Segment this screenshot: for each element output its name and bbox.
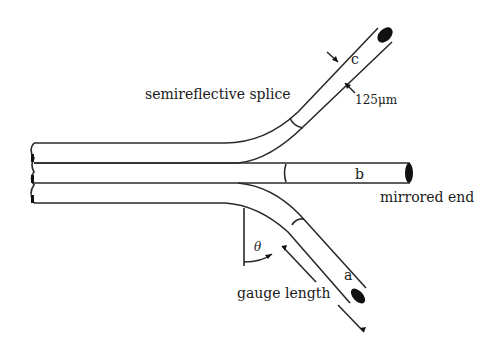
mirrored-end-label: mirrored end bbox=[380, 190, 474, 204]
gauge-length-line-bottom bbox=[338, 305, 364, 332]
fiber-c-label: c bbox=[351, 52, 359, 66]
splice-mark-a bbox=[292, 219, 304, 225]
fiber-b-label: b bbox=[355, 167, 364, 181]
fiber-a-end bbox=[348, 286, 368, 306]
diameter-label: 125μm bbox=[355, 94, 397, 106]
splice-label: semireflective splice bbox=[145, 87, 291, 101]
fiber-c-inner-edge bbox=[34, 42, 392, 163]
splice-mark-b bbox=[285, 164, 287, 182]
fiber-coupler-diagram bbox=[0, 0, 504, 357]
gauge-length-line-top bbox=[282, 246, 316, 282]
splice-mark-c bbox=[290, 118, 303, 128]
left-end-mark bbox=[31, 154, 34, 162]
fiber-a-label: a bbox=[344, 268, 352, 282]
fiber-left-end bbox=[31, 143, 34, 203]
angle-theta-label: θ bbox=[254, 241, 261, 253]
mirrored-end-cap bbox=[405, 163, 413, 183]
fiber-c-end bbox=[374, 24, 395, 45]
gauge-length-label: gauge length bbox=[237, 286, 330, 300]
